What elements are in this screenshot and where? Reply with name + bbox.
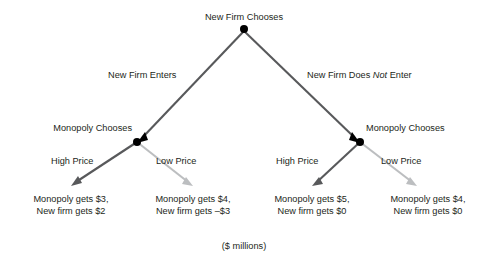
- outcome-1-line2: New firm gets $2: [37, 206, 106, 216]
- branch-label-right-high-price: High Price: [276, 156, 318, 166]
- branch-label-new-firm-does-not-enter: New Firm Does Not Enter: [307, 70, 412, 80]
- level1-edges: [137, 31, 360, 143]
- node-root-new-firm[interactable]: [240, 25, 248, 33]
- game-tree-diagram: New Firm Chooses Monopoly Chooses Monopo…: [0, 0, 488, 262]
- monopoly-right-label: Monopoly Chooses: [366, 123, 445, 133]
- outcome-4-line1: Monopoly gets $4,: [390, 194, 465, 204]
- outcome-3: Monopoly gets $5, New firm gets $0: [274, 194, 349, 216]
- node-monopoly-left[interactable]: [133, 138, 141, 146]
- root-label: New Firm Chooses: [205, 12, 284, 22]
- label-part-not: Not: [373, 70, 388, 80]
- branch-label-left-low-price: Low Price: [156, 156, 196, 166]
- label-part-pre: New Firm Does: [307, 70, 373, 80]
- arrowhead-left-high-price: [71, 176, 82, 186]
- diagram-caption: ($ millions): [222, 241, 266, 251]
- outcome-3-line1: Monopoly gets $5,: [274, 194, 349, 204]
- outcome-1-line1: Monopoly gets $3,: [33, 194, 108, 204]
- outcome-2: Monopoly gets $4, New firm gets –$3: [155, 194, 230, 216]
- outcome-4-line2: New firm gets $0: [394, 206, 463, 216]
- outcome-4: Monopoly gets $4, New firm gets $0: [390, 194, 465, 216]
- monopoly-left-label: Monopoly Chooses: [53, 123, 132, 133]
- edge-new-firm-does-not-enter: [244, 31, 355, 138]
- branch-label-left-high-price: High Price: [51, 156, 93, 166]
- edge-new-firm-enters: [142, 31, 244, 138]
- outcome-2-line1: Monopoly gets $4,: [155, 194, 230, 204]
- node-monopoly-right[interactable]: [356, 138, 364, 146]
- branch-label-right-low-price: Low Price: [381, 156, 421, 166]
- branch-label-new-firm-enters: New Firm Enters: [108, 70, 177, 80]
- edge-right-high-price: [317, 142, 360, 182]
- label-part-post: Enter: [387, 70, 412, 80]
- outcome-1: Monopoly gets $3, New firm gets $2: [33, 194, 108, 216]
- outcome-3-line2: New firm gets $0: [278, 206, 347, 216]
- outcome-2-line2: New firm gets –$3: [156, 206, 230, 216]
